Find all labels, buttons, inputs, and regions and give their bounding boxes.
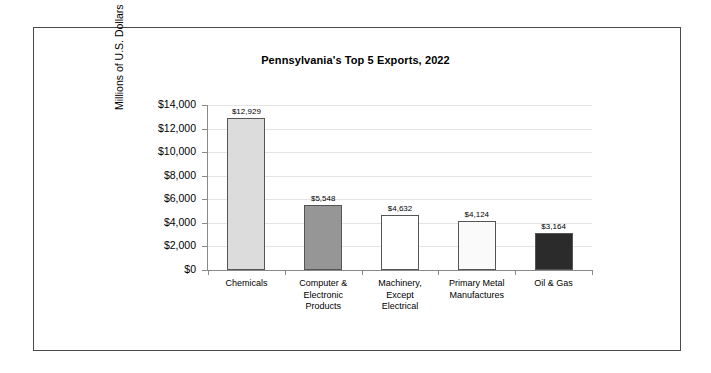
y-axis-tick <box>202 223 207 224</box>
x-axis-tick <box>592 270 593 275</box>
category-label-line: Electrical <box>362 301 439 313</box>
category-label-line: Primary Metal <box>438 278 515 290</box>
bar-value-label: $4,632 <box>370 204 430 213</box>
bar <box>458 221 496 270</box>
y-axis-tick <box>202 176 207 177</box>
y-axis-tick <box>202 199 207 200</box>
y-axis-title: Millions of U.S. Dollars <box>113 0 133 110</box>
x-axis-tick <box>285 270 286 275</box>
category-label-line: Manufactures <box>438 290 515 302</box>
bar <box>304 205 342 270</box>
gridline <box>208 176 592 177</box>
x-axis-category-label: Oil & Gas <box>515 278 592 290</box>
category-label-line: Machinery, <box>362 278 439 290</box>
x-axis-tick <box>438 270 439 275</box>
bar <box>381 215 419 270</box>
y-axis-label: $6,000 <box>138 192 196 204</box>
bar-value-label: $12,929 <box>216 107 276 116</box>
y-axis-tick <box>202 129 207 130</box>
gridline <box>208 199 592 200</box>
x-axis-category-label: Primary MetalManufactures <box>438 278 515 301</box>
category-label-line: Computer & <box>285 278 362 290</box>
y-axis-label: $10,000 <box>138 145 196 157</box>
x-axis-tick <box>208 270 209 275</box>
x-axis-category-label: Computer &ElectronicProducts <box>285 278 362 313</box>
gridline <box>208 152 592 153</box>
y-axis-label: $0 <box>138 263 196 275</box>
y-axis-label: $2,000 <box>138 239 196 251</box>
bar <box>535 233 573 270</box>
y-axis-label: $12,000 <box>138 122 196 134</box>
y-axis-tick <box>202 105 207 106</box>
bar-value-label: $5,548 <box>293 194 353 203</box>
y-axis-tick <box>202 152 207 153</box>
y-axis-tick <box>202 270 207 271</box>
bar-value-label: $4,124 <box>447 210 507 219</box>
chart-canvas: Pennsylvania's Top 5 Exports, 2022 Milli… <box>0 0 711 373</box>
gridline <box>208 270 592 271</box>
gridline <box>208 129 592 130</box>
x-axis-category-label: Chemicals <box>208 278 285 290</box>
plot-area <box>208 105 592 270</box>
category-label-line: Oil & Gas <box>515 278 592 290</box>
bar <box>227 118 265 270</box>
x-axis-category-label: Machinery,ExceptElectrical <box>362 278 439 313</box>
category-label-line: Electronic <box>285 290 362 302</box>
y-axis-label: $14,000 <box>138 98 196 110</box>
y-axis-tick <box>202 246 207 247</box>
category-label-line: Chemicals <box>208 278 285 290</box>
bar-value-label: $3,164 <box>524 222 584 231</box>
category-label-line: Except <box>362 290 439 302</box>
x-axis-tick <box>362 270 363 275</box>
category-label-line: Products <box>285 301 362 313</box>
x-axis-tick <box>515 270 516 275</box>
chart-title: Pennsylvania's Top 5 Exports, 2022 <box>0 54 711 66</box>
y-axis-label: $8,000 <box>138 169 196 181</box>
y-axis-label: $4,000 <box>138 216 196 228</box>
